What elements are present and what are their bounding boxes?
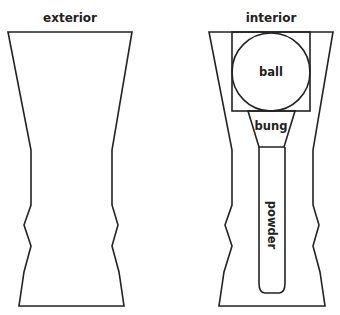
bung-label: bung: [255, 119, 288, 133]
ball-label: ball: [259, 65, 283, 79]
exterior-panel: exterior: [8, 11, 132, 306]
exterior-outline: [8, 32, 132, 306]
interior-panel: interior ball bung powder: [209, 11, 333, 306]
cannon-cross-section-diagram: exterior interior ball bung powder: [0, 0, 340, 315]
powder-label: powder: [265, 201, 279, 250]
interior-title: interior: [246, 11, 297, 25]
exterior-title: exterior: [43, 11, 97, 25]
